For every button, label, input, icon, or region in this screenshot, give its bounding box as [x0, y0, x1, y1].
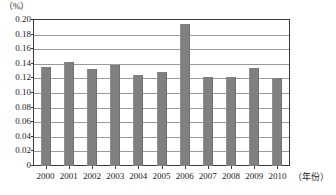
bar — [64, 62, 74, 166]
x-axis-tick-label: 2002 — [83, 170, 101, 182]
x-axis-tick-mark — [254, 166, 255, 169]
x-axis-tick-label: 2006 — [176, 170, 194, 182]
y-axis-tick-label: 0.14 — [1, 59, 31, 68]
y-axis-tick-label: 0.18 — [1, 30, 31, 39]
x-axis-tick-mark — [46, 166, 47, 169]
y-axis-tick-label: 0.08 — [1, 103, 31, 112]
bar-series — [34, 20, 289, 166]
bar — [157, 72, 167, 166]
x-axis-tick-mark — [208, 166, 209, 169]
x-axis-tick-label: 2007 — [199, 170, 217, 182]
x-axis-tick-mark — [277, 166, 278, 169]
bar — [41, 67, 51, 166]
y-axis-tick-label: 0.04 — [1, 132, 31, 141]
x-axis-labels: 2000200120022003200420052006200720082009… — [34, 170, 289, 184]
bar — [180, 24, 190, 166]
y-axis-tick-label: 0.02 — [1, 146, 31, 155]
x-axis-tick-mark — [231, 166, 232, 169]
bar — [249, 68, 259, 166]
y-axis-tick-label: 0.16 — [1, 44, 31, 53]
bar — [87, 69, 97, 166]
y-axis-tick-label: 0.10 — [1, 88, 31, 97]
y-axis-unit-label: （%） — [4, 1, 30, 11]
x-axis-tick-label: 2008 — [222, 170, 240, 182]
x-axis-tick-mark — [69, 166, 70, 169]
bar — [272, 78, 282, 166]
bar — [110, 65, 120, 166]
x-axis-tick-label: 2005 — [153, 170, 171, 182]
y-axis-tick-label: 0.20 — [1, 15, 31, 24]
x-axis-tick-mark — [92, 166, 93, 169]
x-axis-tick-mark — [185, 166, 186, 169]
x-axis-tick-mark — [115, 166, 116, 169]
x-axis-tick-mark — [162, 166, 163, 169]
x-axis-tick-mark — [138, 166, 139, 169]
y-axis-tick-label: 0.06 — [1, 117, 31, 126]
x-axis-tick-label: 2004 — [129, 170, 147, 182]
bar — [226, 77, 236, 166]
bar — [133, 75, 143, 166]
y-axis: 0.200.180.160.140.120.100.080.060.040.02… — [0, 19, 31, 166]
x-axis-tick-label: 2003 — [106, 170, 124, 182]
y-axis-tick-label: 0.12 — [1, 73, 31, 82]
x-axis-title: （年份） — [293, 171, 329, 183]
x-axis-tick-label: 2000 — [37, 170, 55, 182]
bar-chart: （%） 0.200.180.160.140.120.100.080.060.04… — [0, 0, 336, 195]
x-axis-tick-label: 2001 — [60, 170, 78, 182]
y-axis-tick-label: 0 — [1, 161, 31, 170]
bar — [203, 77, 213, 166]
x-axis-tick-label: 2009 — [245, 170, 263, 182]
x-axis-tick-label: 2010 — [268, 170, 286, 182]
